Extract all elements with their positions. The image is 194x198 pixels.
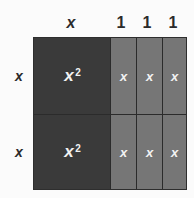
tile-x-squared: x2	[34, 114, 110, 189]
tile-label-base: x	[64, 66, 74, 86]
column-label-1: x	[55, 12, 87, 34]
tile-label-base: x	[120, 145, 127, 160]
tile-label-base: x	[171, 145, 178, 160]
tile-label-base: x	[146, 145, 153, 160]
tile-x: x	[110, 38, 136, 114]
tile-x: x	[162, 38, 186, 114]
tile-x: x	[136, 38, 162, 114]
tile-label-base: x	[64, 142, 74, 162]
column-label-2: 1	[108, 12, 134, 34]
tile-label-exponent: 2	[75, 67, 81, 78]
tile-x: x	[110, 114, 136, 189]
row-label-1: x	[8, 68, 30, 84]
tile-x: x	[162, 114, 186, 189]
tile-grid: x2 x x x x2 x x x	[33, 37, 187, 190]
algebra-tile-diagram: x 1 1 1 x x x2 x x x x2 x x x	[0, 0, 194, 198]
tile-label-exponent: 2	[75, 143, 81, 154]
tile-label-base: x	[146, 69, 153, 84]
row-label-2: x	[8, 144, 30, 160]
column-label-3: 1	[134, 12, 160, 34]
tile-x-squared: x2	[34, 38, 110, 114]
tile-label-base: x	[171, 69, 178, 84]
column-label-4: 1	[160, 12, 186, 34]
tile-x: x	[136, 114, 162, 189]
tile-label-base: x	[120, 69, 127, 84]
